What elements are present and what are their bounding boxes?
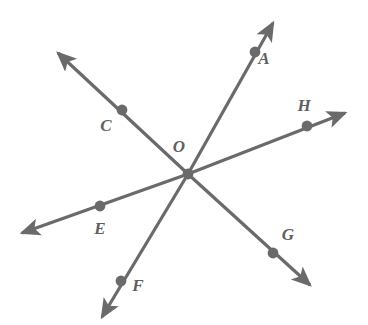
point-dot-h — [302, 121, 313, 132]
point-label-a: A — [257, 49, 269, 68]
point-dot-o — [183, 169, 194, 180]
point-label-h: H — [296, 96, 311, 115]
point-dot-g — [268, 248, 279, 259]
geometry-canvas: ACHEGFO — [0, 0, 368, 325]
point-dot-e — [95, 201, 106, 212]
ray-OF — [102, 174, 188, 317]
rays-group — [22, 23, 345, 317]
geometry-diagram: ACHEGFO — [0, 0, 368, 325]
ray-OA — [188, 23, 273, 174]
point-label-c: C — [100, 116, 112, 135]
point-dot-f — [116, 276, 127, 287]
point-label-f: F — [131, 276, 144, 295]
point-label-g: G — [282, 225, 295, 244]
point-label-o: O — [173, 137, 185, 156]
point-label-e: E — [93, 219, 105, 238]
point-dot-c — [117, 105, 128, 116]
ray-OH — [188, 113, 345, 174]
